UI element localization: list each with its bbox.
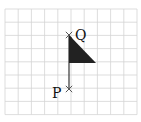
point-p-label: P [52, 85, 61, 101]
grid-diagram: Q P [0, 0, 141, 122]
point-q-label: Q [75, 27, 86, 43]
